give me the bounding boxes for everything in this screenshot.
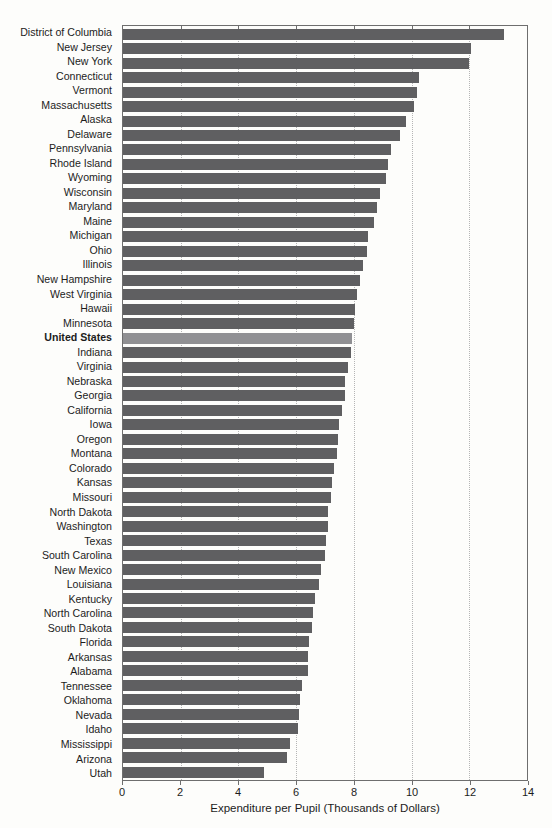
bar-rhode-island [123, 159, 388, 170]
category-label-ohio: Ohio [0, 243, 117, 258]
bar-row-tennessee [123, 678, 527, 692]
bar-row-north-carolina [123, 606, 527, 620]
category-label-minnesota: Minnesota [0, 316, 117, 331]
bar-row-south-dakota [123, 620, 527, 634]
bar-row-arkansas [123, 649, 527, 663]
bar-north-dakota [123, 506, 328, 517]
category-label-oklahoma: Oklahoma [0, 693, 117, 708]
bar-minnesota [123, 318, 354, 329]
bar-row-maine [123, 215, 527, 229]
bar-louisiana [123, 579, 319, 590]
bar-new-jersey [123, 43, 471, 54]
x-tick-0 [122, 781, 123, 785]
category-label-new-mexico: New Mexico [0, 563, 117, 578]
category-label-utah: Utah [0, 766, 117, 781]
category-label-north-dakota: North Dakota [0, 505, 117, 520]
bar-district-of-columbia [123, 29, 504, 40]
category-label-iowa: Iowa [0, 417, 117, 432]
x-axis-title: Expenditure per Pupil (Thousands of Doll… [122, 802, 528, 814]
category-label-texas: Texas [0, 534, 117, 549]
category-label-missouri: Missouri [0, 490, 117, 505]
x-tick-label-0: 0 [119, 787, 125, 798]
category-label-indiana: Indiana [0, 345, 117, 360]
bar-row-district-of-columbia [123, 27, 527, 41]
category-label-colorado: Colorado [0, 461, 117, 476]
category-label-oregon: Oregon [0, 432, 117, 447]
category-label-arizona: Arizona [0, 752, 117, 767]
bar-vermont [123, 87, 417, 98]
bar-row-illinois [123, 259, 527, 273]
category-label-tennessee: Tennessee [0, 679, 117, 694]
bar-michigan [123, 231, 368, 242]
category-label-connecticut: Connecticut [0, 69, 117, 84]
bar-tennessee [123, 680, 302, 691]
bars-container [123, 26, 527, 780]
category-label-mississippi: Mississippi [0, 737, 117, 752]
bar-georgia [123, 390, 345, 401]
x-tick-label-12: 12 [464, 787, 476, 798]
bar-row-north-dakota [123, 504, 527, 518]
bar-wisconsin [123, 188, 380, 199]
bar-row-louisiana [123, 577, 527, 591]
bar-iowa [123, 419, 339, 430]
bar-row-rhode-island [123, 157, 527, 171]
bar-row-maryland [123, 201, 527, 215]
bar-north-carolina [123, 607, 313, 618]
bar-virginia [123, 362, 348, 373]
bar-row-kentucky [123, 591, 527, 605]
category-label-arkansas: Arkansas [0, 650, 117, 665]
bar-row-missouri [123, 490, 527, 504]
category-label-delaware: Delaware [0, 127, 117, 142]
bar-row-florida [123, 635, 527, 649]
bar-row-west-virginia [123, 287, 527, 301]
bar-california [123, 405, 342, 416]
category-label-wyoming: Wyoming [0, 170, 117, 185]
bar-row-iowa [123, 418, 527, 432]
bar-illinois [123, 260, 363, 271]
category-label-michigan: Michigan [0, 228, 117, 243]
category-label-montana: Montana [0, 446, 117, 461]
bar-oregon [123, 434, 338, 445]
category-label-district-of-columbia: District of Columbia [0, 25, 117, 40]
bar-utah [123, 767, 264, 778]
bar-row-idaho [123, 722, 527, 736]
bar-united-states [123, 333, 352, 344]
category-label-virginia: Virginia [0, 359, 117, 374]
bar-row-new-jersey [123, 41, 527, 55]
bar-row-montana [123, 447, 527, 461]
bar-row-vermont [123, 85, 527, 99]
bar-row-mississippi [123, 736, 527, 750]
bar-new-york [123, 58, 469, 69]
bar-row-nebraska [123, 374, 527, 388]
category-label-south-dakota: South Dakota [0, 621, 117, 636]
bar-row-massachusetts [123, 99, 527, 113]
category-label-new-hampshire: New Hampshire [0, 272, 117, 287]
bar-row-arizona [123, 750, 527, 764]
category-label-vermont: Vermont [0, 83, 117, 98]
bar-maine [123, 217, 374, 228]
x-tick-label-2: 2 [177, 787, 183, 798]
bar-row-hawaii [123, 302, 527, 316]
x-tick-label-10: 10 [406, 787, 418, 798]
bar-oklahoma [123, 694, 300, 705]
bar-row-michigan [123, 230, 527, 244]
bar-texas [123, 535, 326, 546]
x-tick-12 [470, 781, 471, 785]
bar-south-carolina [123, 550, 325, 561]
bar-missouri [123, 492, 331, 503]
y-axis-category-labels: District of ColumbiaNew JerseyNew YorkCo… [0, 25, 117, 781]
category-label-north-carolina: North Carolina [0, 606, 117, 621]
category-label-illinois: Illinois [0, 258, 117, 273]
category-label-south-carolina: South Carolina [0, 548, 117, 563]
bar-massachusetts [123, 101, 414, 112]
bar-connecticut [123, 72, 419, 83]
bar-row-pennsylvania [123, 143, 527, 157]
bar-row-oklahoma [123, 693, 527, 707]
category-label-nebraska: Nebraska [0, 374, 117, 389]
bar-row-delaware [123, 128, 527, 142]
category-label-massachusetts: Massachusetts [0, 98, 117, 113]
bar-west-virginia [123, 289, 357, 300]
bar-nebraska [123, 376, 345, 387]
bar-delaware [123, 130, 400, 141]
bar-row-texas [123, 533, 527, 547]
